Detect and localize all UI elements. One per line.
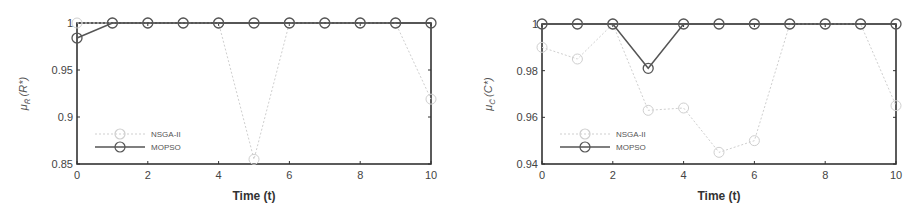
- chart-right: 02468100.940.960.981Time (t)μC̃(C*)NSGA-…: [460, 0, 918, 212]
- y-axis-label: μR̃(R*): [17, 76, 32, 111]
- y-tick-label: 0.85: [52, 158, 73, 170]
- x-tick-label: 6: [286, 169, 292, 181]
- x-tick-label: 4: [216, 169, 222, 181]
- plot-area-frame: [542, 24, 896, 164]
- legend-label: NSGA-II: [151, 130, 181, 139]
- svg-text:μC̃(C*): μC̃(C*): [482, 77, 497, 112]
- legend-label: MOPSO: [616, 143, 646, 152]
- y-tick-label: 0.96: [517, 111, 538, 123]
- y-tick-label: 0.98: [517, 65, 538, 77]
- x-tick-label: 10: [890, 169, 902, 181]
- plot-area-frame: [77, 23, 431, 164]
- mopso-line: [77, 23, 431, 38]
- x-tick-label: 2: [610, 169, 616, 181]
- x-tick-label: 4: [681, 169, 687, 181]
- nsga-ii-marker: [249, 154, 259, 164]
- mopso-line: [542, 24, 896, 68]
- y-axis-label: μC̃(C*): [482, 77, 497, 112]
- y-tick-label: 0.94: [517, 158, 538, 170]
- x-tick-label: 2: [145, 169, 151, 181]
- y-tick-label: 0.95: [52, 64, 73, 76]
- x-axis-label: Time (t): [232, 189, 275, 203]
- x-tick-label: 10: [425, 169, 437, 181]
- legend-label: MOPSO: [151, 143, 181, 152]
- nsga-ii-line: [542, 24, 896, 152]
- x-tick-label: 6: [751, 169, 757, 181]
- x-tick-label: 8: [822, 169, 828, 181]
- x-tick-label: 0: [74, 169, 80, 181]
- chart-left: 02468100.850.90.951Time (t)μR̃(R*)NSGA-I…: [0, 0, 460, 212]
- x-tick-label: 8: [357, 169, 363, 181]
- legend-label: NSGA-II: [616, 130, 646, 139]
- nsga-ii-line: [77, 23, 431, 159]
- svg-text:μR̃(R*): μR̃(R*): [17, 76, 32, 111]
- x-tick-label: 0: [539, 169, 545, 181]
- y-tick-label: 0.9: [58, 111, 73, 123]
- x-axis-label: Time (t): [697, 189, 740, 203]
- chart-right-svg: 02468100.940.960.981Time (t)μC̃(C*)NSGA-…: [460, 0, 918, 212]
- chart-left-svg: 02468100.850.90.951Time (t)μR̃(R*)NSGA-I…: [0, 0, 460, 212]
